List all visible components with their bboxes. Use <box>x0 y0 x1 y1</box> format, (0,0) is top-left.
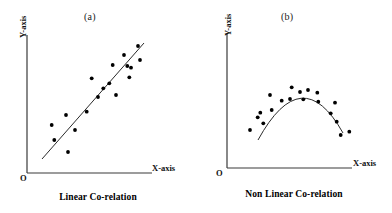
data-point <box>256 115 260 119</box>
data-point <box>114 93 118 97</box>
data-point <box>85 110 89 114</box>
data-point <box>127 75 131 79</box>
data-point <box>280 99 284 103</box>
data-point <box>64 113 68 117</box>
data-point <box>306 88 310 92</box>
data-point <box>315 91 319 95</box>
data-point <box>316 100 320 104</box>
origin-label: O <box>20 173 27 183</box>
x-axis-label: X-axis <box>152 163 175 173</box>
origin-label: O <box>216 168 223 178</box>
data-point <box>258 111 262 115</box>
data-point <box>73 128 77 132</box>
data-point <box>52 138 56 142</box>
data-point <box>111 63 115 67</box>
linear-corelation-plot <box>0 0 196 213</box>
figure-root: (a) Y-axis X-axis O Linear Co-relation <box>0 0 392 213</box>
data-point <box>138 58 142 62</box>
data-point <box>268 93 272 97</box>
panel-index-label: (b) <box>281 11 293 22</box>
data-point <box>298 90 302 94</box>
data-point <box>261 121 265 125</box>
data-point <box>329 111 333 115</box>
panel-caption: Linear Co-relation <box>0 192 196 202</box>
data-point <box>96 95 100 99</box>
data-point <box>122 53 126 57</box>
data-point <box>90 76 94 80</box>
panel-linear-corelation: (a) Y-axis X-axis O Linear Co-relation <box>0 0 196 213</box>
data-point <box>66 150 70 154</box>
data-point <box>125 64 129 68</box>
data-point <box>339 133 343 137</box>
data-point <box>248 128 252 132</box>
data-point <box>136 44 140 48</box>
data-point <box>288 97 292 101</box>
data-point <box>50 123 54 127</box>
trend-curve <box>258 98 343 140</box>
data-point <box>301 97 305 101</box>
panel-caption: Non Linear Co-relation <box>196 189 392 199</box>
data-point <box>107 81 111 85</box>
y-axis-label: Y-axis <box>18 16 28 38</box>
data-point <box>290 85 294 89</box>
panel-index-label: (a) <box>84 11 96 22</box>
data-point <box>333 101 337 105</box>
data-point <box>270 108 274 112</box>
data-point <box>101 86 105 90</box>
data-point <box>129 66 133 70</box>
y-axis-label: Y-axis <box>223 14 233 36</box>
trend-line <box>42 43 144 159</box>
x-axis-label: X-axis <box>353 158 376 168</box>
scatter-points <box>248 85 351 137</box>
data-point <box>347 130 351 134</box>
panel-non-linear-corelation: (b) Y-axis X-axis O Non Linear Co-relati… <box>196 0 392 213</box>
data-point <box>335 120 339 124</box>
